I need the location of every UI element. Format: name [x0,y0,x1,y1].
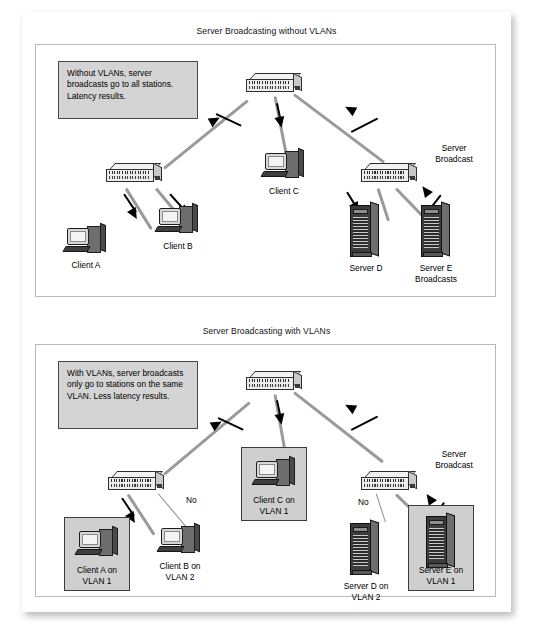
server-bezel [424,209,439,214]
pc-screen [162,211,178,222]
server-vents [424,217,439,248]
pc-tower-side [112,526,118,556]
server-d-icon[interactable] [350,203,380,259]
client-a-computer-icon[interactable] [64,223,108,259]
client-a-computer-icon[interactable] [76,526,120,562]
server-foot [352,252,372,257]
switch-ports-row-2 [364,484,404,487]
server-d-icon[interactable] [350,521,380,577]
right-switch[interactable] [361,471,417,492]
server-e-icon[interactable] [426,514,456,570]
switch-led [157,484,162,488]
server-side [370,519,379,574]
client-b-computer-icon[interactable] [156,203,200,239]
arrow-head-to-client-c [274,413,286,426]
pc-screen [164,531,180,542]
server-broadcast-label: Server Broadcast [414,143,494,164]
arrow-tail-from-right [351,117,379,132]
left-switch[interactable] [106,163,162,184]
link-core-to-right-switch [293,93,385,163]
pc-tower-side [194,523,200,553]
server-d-label: Server D on VLAN 2 [324,581,408,602]
switch-ports-row-1 [111,479,151,482]
pc-monitor [265,153,287,170]
client-c-computer-icon[interactable] [253,456,297,492]
panel-with-vlans: Server Broadcasting with VLANs With VLAN… [22,312,511,612]
switch-led [295,384,300,388]
client-b-label: Client B [136,241,220,252]
callout-with-vlans: With VLANs, server broadcasts only go to… [58,361,198,429]
core-switch[interactable] [246,371,302,392]
pc-monitor [79,531,101,548]
switch-ports-row-2 [111,484,151,487]
client-b-computer-icon[interactable] [158,523,202,559]
arrow-head-from-right [343,400,357,414]
client-a-label: Client A [44,260,128,271]
switch-led [410,176,415,180]
right-switch[interactable] [361,163,417,184]
server-e-icon[interactable] [421,203,451,259]
server-side [370,201,379,256]
left-switch[interactable] [108,471,164,492]
server-vents [429,528,444,559]
pc-tower [87,226,101,253]
pc-tower-side [192,203,198,233]
pc-tower [179,206,193,233]
panel-1-frame: Without VLANs, server broadcasts go to a… [35,44,496,297]
vlan-box-server-e[interactable]: Server E on VLAN 1 [408,505,474,591]
client-a-label: Client A on VLAN 1 [65,565,129,586]
server-side [446,512,455,567]
switch-led [410,484,415,488]
server-broadcast-label: Server Broadcast [414,449,494,470]
client-c-computer-icon[interactable] [262,148,306,184]
pc-keyboard [260,171,288,177]
panel-without-vlans: Server Broadcasting without VLANs Withou… [22,12,511,312]
switch-ports-row-2 [109,176,149,179]
vlan-box-client-c[interactable]: Client C on VLAN 1 [241,447,307,521]
server-foot [423,252,443,257]
pc-screen [259,464,275,475]
vlan-box-client-a[interactable]: Client A on VLAN 1 [64,517,130,591]
switch-led [155,176,160,180]
pc-keyboard [154,226,182,232]
pc-tower-side [100,223,106,253]
pc-tower [285,151,299,178]
diagram-page: Server Broadcasting without VLANs Withou… [22,12,511,612]
pc-monitor [159,208,181,225]
pc-tower [99,529,113,556]
core-switch[interactable] [246,73,302,94]
pc-tower [181,526,195,553]
pc-tower-side [298,148,304,178]
arrow-head-from-server-e [422,491,437,506]
switch-ports-row-1 [364,171,404,174]
pc-screen [70,231,86,242]
switch-ports-row-1 [109,171,149,174]
pc-keyboard [251,479,279,485]
server-side [441,201,450,256]
link-right-switch-to-server-d [375,493,386,522]
server-e-label: Server E on VLAN 1 [409,565,473,586]
server-vents [353,535,368,566]
switch-led [295,86,300,90]
pc-screen [82,534,98,545]
no-label-server-d: No [358,497,369,507]
server-vents [353,217,368,248]
callout-without-vlans: Without VLANs, server broadcasts go to a… [58,61,198,119]
panel-1-title: Server Broadcasting without VLANs [22,26,511,36]
arrow-head-from-server-e [418,183,433,198]
arrow-head-to-client-c [274,116,286,129]
arrow-head-from-right [343,102,357,116]
pc-monitor [161,528,183,545]
pc-keyboard [74,549,102,555]
server-bezel [429,520,444,525]
pc-keyboard [62,246,90,252]
client-c-label: Client C [242,186,326,197]
link-left-switch-to-client-a [125,188,153,230]
switch-ports-row-1 [249,81,289,84]
switch-ports-row-2 [249,384,289,387]
no-label-client-b: No [186,495,197,505]
pc-tower [276,459,290,486]
pc-keyboard [156,546,184,552]
pc-tower-side [289,456,295,486]
panel-2-frame: With VLANs, server broadcasts only go to… [35,344,496,597]
